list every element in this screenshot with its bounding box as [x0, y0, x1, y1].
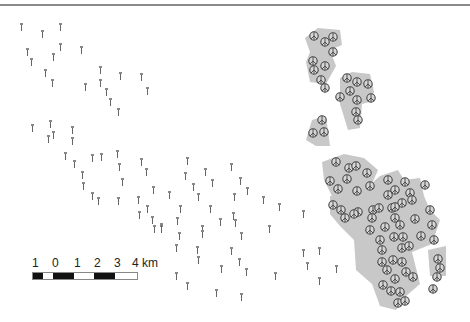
turbine-icon	[118, 163, 121, 171]
turbine-icon	[145, 168, 148, 176]
peace-circle-icon	[391, 203, 399, 211]
turbine-icon	[140, 158, 143, 166]
peace-circle-icon	[391, 186, 399, 194]
turbine-icon	[91, 192, 94, 200]
scale-bar: 1 0 1 2 3 4 km	[32, 256, 172, 286]
turbine-icon	[238, 258, 241, 266]
scale-bar-labels: 1 0 1 2 3 4 km	[32, 256, 192, 270]
peace-circle-icon	[428, 221, 436, 229]
turbine-icon	[240, 232, 243, 240]
peace-circle-icon	[343, 175, 351, 183]
scale-label: 3	[114, 256, 121, 270]
peace-circle-icon	[337, 206, 345, 214]
peace-circle-icon	[390, 233, 398, 241]
turbine-icon	[153, 225, 156, 233]
peace-circle-icon	[401, 178, 409, 186]
turbine-icon	[51, 79, 54, 87]
peace-circle-icon	[329, 48, 337, 56]
turbine-icon	[245, 268, 248, 276]
turbine-icon	[105, 88, 108, 96]
turbine-icon	[52, 53, 55, 61]
turbine-icon	[186, 157, 189, 165]
peace-circle-icon	[326, 177, 334, 185]
turbine-icon	[99, 79, 102, 87]
turbine-icon	[335, 265, 338, 273]
peace-circle-icon	[350, 210, 358, 218]
peace-circle-icon	[310, 32, 318, 40]
peace-circle-icon	[436, 264, 444, 272]
turbine-icon	[196, 246, 199, 254]
turbine-icon	[204, 168, 207, 176]
turbine-icon	[138, 211, 141, 219]
peace-circle-icon	[381, 223, 389, 231]
peace-circle-icon	[379, 281, 387, 289]
turbine-icon	[140, 73, 143, 81]
turbine-icon	[91, 154, 94, 162]
peace-circle-icon	[375, 204, 383, 212]
turbine-icon	[151, 216, 154, 224]
peace-circle-icon	[309, 129, 317, 137]
turbine-icon	[59, 43, 62, 51]
peace-circle-icon	[321, 62, 329, 70]
peace-circle-icon	[352, 162, 360, 170]
peace-circle-icon	[384, 176, 392, 184]
scale-segment	[53, 273, 74, 279]
turbine-icon	[41, 30, 44, 38]
peace-circle-icon	[353, 96, 361, 104]
turbine-icon	[186, 282, 189, 290]
turbine-icon	[302, 210, 305, 218]
peace-circle-icon	[310, 66, 318, 74]
turbine-icon	[302, 249, 305, 257]
peace-circle-icon	[378, 246, 386, 254]
peace-circle-icon	[378, 258, 386, 266]
scale-label: 2	[94, 256, 101, 270]
peace-circle-icon	[367, 94, 375, 102]
turbine-icon	[175, 272, 178, 280]
turbine-icon	[84, 83, 87, 91]
peace-circle-icon	[353, 78, 361, 86]
turbine-icon	[100, 153, 103, 161]
peace-circle-icon	[417, 232, 425, 240]
turbine-icon	[152, 186, 155, 194]
peace-circle-icon	[318, 116, 326, 124]
peace-circle-icon	[409, 273, 417, 281]
peace-circle-icon	[334, 185, 342, 193]
turbine-icon	[160, 223, 163, 231]
peace-circle-icon	[426, 206, 434, 214]
turbine-icon	[52, 131, 55, 139]
turbine-icon	[197, 256, 200, 264]
peace-circle-icon	[411, 215, 419, 223]
scale-segment	[33, 273, 43, 279]
turbine-icon	[211, 179, 214, 187]
peace-circle-icon	[434, 255, 442, 263]
peace-circle-icon	[346, 87, 354, 95]
peace-circle-icon	[408, 196, 416, 204]
peace-circle-icon	[387, 287, 395, 295]
turbine-icon	[230, 247, 233, 255]
turbine-icon	[73, 160, 76, 168]
peace-circle-icon	[321, 38, 329, 46]
turbine-icon	[71, 126, 74, 134]
peace-circle-icon	[366, 226, 374, 234]
turbine-icon	[178, 232, 181, 240]
scale-segment	[115, 273, 135, 279]
turbine-icon	[219, 218, 222, 226]
turbine-icon	[117, 108, 120, 116]
peace-circle-icon	[317, 76, 325, 84]
peace-circle-icon	[433, 273, 441, 281]
turbine-icon	[116, 150, 119, 158]
scale-label: 4 km	[132, 256, 158, 270]
turbine-icon	[97, 197, 100, 205]
scale-label: 1	[74, 256, 81, 270]
turbine-icon	[220, 265, 223, 273]
peace-circle-icon	[309, 57, 317, 65]
peace-circle-icon	[353, 187, 361, 195]
peace-circle-icon	[398, 258, 406, 266]
scale-bar-segments	[32, 272, 138, 280]
turbine-icon	[30, 58, 33, 66]
turbine-icon	[175, 244, 178, 252]
turbine-icon	[59, 23, 62, 31]
peace-circle-icon	[329, 33, 337, 41]
turbine-icon	[109, 98, 112, 106]
turbine-icon	[306, 262, 309, 270]
